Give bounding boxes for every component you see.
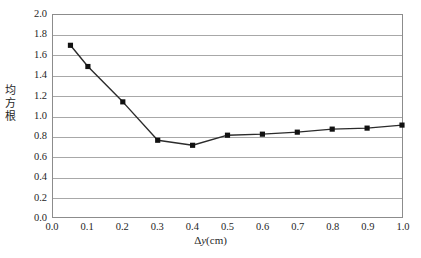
y-tick-label-1.8: 1.8 xyxy=(0,28,47,39)
x-tick-label-0.3: 0.3 xyxy=(137,221,177,232)
y-tick-label-1.4: 1.4 xyxy=(0,69,47,80)
x-axis-title: Δy(cm) xyxy=(0,234,421,247)
data-point-marker xyxy=(225,133,230,138)
data-point-marker xyxy=(365,126,370,131)
x-tick-label-0.9: 0.9 xyxy=(348,221,388,232)
x-tick-label-0.5: 0.5 xyxy=(208,221,248,232)
x-axis-title-unit: (cm) xyxy=(206,234,227,246)
figure-chart-rms-vs-delta-y: 均 方 根 0.00.20.40.60.81.01.21.41.61.82.0 … xyxy=(0,0,421,258)
y-tick-label-1.0: 1.0 xyxy=(0,110,47,121)
y-tick-label-1.6: 1.6 xyxy=(0,49,47,60)
data-point-marker xyxy=(68,43,73,48)
y-tick-label-2.0: 2.0 xyxy=(0,8,47,19)
x-tick-label-0.0: 0.0 xyxy=(32,221,72,232)
x-tick-label-0.2: 0.2 xyxy=(102,221,142,232)
data-point-marker xyxy=(120,99,125,104)
x-tick-label-0.6: 0.6 xyxy=(243,221,283,232)
x-tick-label-1.0: 1.0 xyxy=(383,221,421,232)
data-point-marker xyxy=(330,127,335,132)
data-point-marker xyxy=(190,143,195,148)
data-point-marker xyxy=(85,64,90,69)
y-tick-label-0.4: 0.4 xyxy=(0,171,47,182)
y-tick-label-1.2: 1.2 xyxy=(0,90,47,101)
series-line xyxy=(70,45,402,145)
series-markers xyxy=(68,43,405,148)
x-tick-label-0.8: 0.8 xyxy=(313,221,353,232)
x-tick-label-0.7: 0.7 xyxy=(278,221,318,232)
data-point-marker xyxy=(155,138,160,143)
x-tick-label-0.4: 0.4 xyxy=(172,221,212,232)
data-point-marker xyxy=(399,123,404,128)
plot-area xyxy=(52,14,403,218)
x-tick-label-0.1: 0.1 xyxy=(67,221,107,232)
data-point-marker xyxy=(295,130,300,135)
caption-sliver xyxy=(0,250,421,258)
y-tick-label-0.8: 0.8 xyxy=(0,130,47,141)
y-tick-label-0.2: 0.2 xyxy=(0,192,47,203)
y-tick-label-0.6: 0.6 xyxy=(0,151,47,162)
series-canvas xyxy=(53,15,402,217)
data-point-marker xyxy=(260,132,265,137)
